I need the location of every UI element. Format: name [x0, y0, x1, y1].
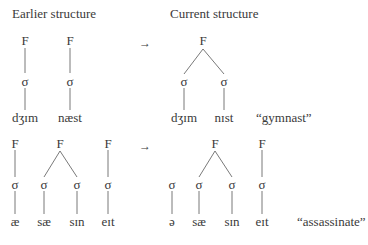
syllable-text: eɪt [102, 215, 115, 228]
syllable-node: σ [180, 75, 187, 88]
syllable-node: σ [21, 75, 28, 88]
arrow-icon: → [139, 140, 151, 152]
syllable-node: σ [104, 178, 111, 191]
syllable-text: sæ [192, 215, 206, 228]
syllable-text: ə [169, 215, 175, 228]
syllable-node: σ [11, 178, 18, 191]
arrow-icon: → [139, 37, 151, 49]
syllable-text: næst [58, 111, 82, 124]
foot-node: F [211, 137, 218, 150]
heading-current-structure: Current structure [170, 7, 258, 20]
gloss-text: “assassinate” [297, 215, 366, 228]
syllable-text: sæ [37, 215, 51, 228]
syllable-text: sɪn [69, 215, 84, 228]
gloss-text: “gymnast” [256, 111, 312, 124]
syllable-text: nɪst [215, 111, 234, 124]
syllable-text: dʒɪm [12, 111, 38, 124]
foot-node: F [21, 34, 28, 47]
syllable-text: dʒɪm [171, 111, 197, 124]
syllable-node: σ [228, 178, 235, 191]
foot-node: F [56, 137, 63, 150]
syllable-node: σ [258, 178, 265, 191]
syllable-node: σ [73, 178, 80, 191]
syllable-node: σ [40, 178, 47, 191]
syllable-node: σ [195, 178, 202, 191]
syllable-node: σ [168, 178, 175, 191]
foot-node: F [104, 137, 111, 150]
syllable-node: σ [220, 75, 227, 88]
foot-node: F [258, 137, 265, 150]
syllable-text: sɪn [224, 215, 239, 228]
foot-node: F [199, 34, 206, 47]
syllable-text: eɪt [256, 215, 269, 228]
syllable-text: æ [11, 215, 20, 228]
heading-earlier-structure: Earlier structure [12, 7, 96, 20]
foot-node: F [66, 34, 73, 47]
foot-node: F [11, 137, 18, 150]
syllable-node: σ [66, 75, 73, 88]
